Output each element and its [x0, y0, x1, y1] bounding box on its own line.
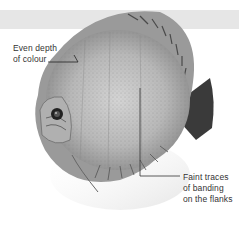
annotation-line: of banding [183, 183, 233, 194]
annotation-line: on the flanks [183, 194, 233, 205]
annotation-banding: Faint traces of banding on the flanks [183, 172, 233, 205]
annotation-even-depth: Even depth of colour [13, 43, 57, 65]
annotation-line: Even depth [13, 43, 57, 54]
annotation-line: of colour [13, 54, 57, 65]
annotation-line: Faint traces [183, 172, 233, 183]
